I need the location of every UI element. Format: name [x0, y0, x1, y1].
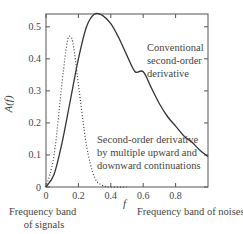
- x-axis-label: f: [123, 197, 128, 209]
- annotation-continuations: Second-order derivative by multiple upwa…: [97, 134, 201, 171]
- x-tick-label: 0.2: [72, 190, 85, 201]
- annotation-signal-band: Frequency band of signals: [9, 206, 79, 230]
- annotation-noise-band: Frequency band of noises: [137, 206, 243, 217]
- y-tick-label: 0.4: [29, 53, 42, 64]
- x-tick-label: 0: [44, 190, 49, 201]
- x-tick-label: 0.8: [169, 190, 182, 201]
- y-tick-label: 0.3: [29, 85, 42, 96]
- y-axis-label: A(f): [2, 95, 15, 113]
- annotation-conventional: Conventional second-order derivative: [147, 42, 206, 79]
- y-tick-label: 0: [36, 182, 41, 193]
- y-tick-label: 0.2: [29, 117, 42, 128]
- x-tick-label: 0.4: [105, 190, 118, 201]
- x-tick-label: 0.6: [137, 190, 150, 201]
- chart: 00.20.40.60.800.10.20.30.40.5 A(f) f Con…: [0, 0, 243, 234]
- y-tick-label: 0.5: [29, 21, 42, 32]
- y-tick-label: 0.1: [29, 149, 42, 160]
